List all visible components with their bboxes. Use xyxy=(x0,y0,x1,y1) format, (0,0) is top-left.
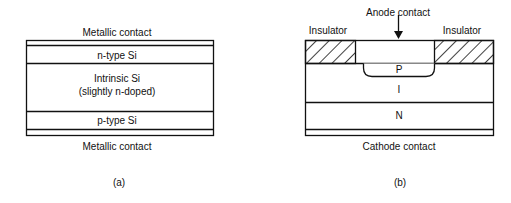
label-p-type-si: p-type Si xyxy=(97,115,136,126)
label-n-type-si: n-type Si xyxy=(97,50,136,61)
label-p-region: P xyxy=(396,64,403,75)
arrow-down-icon xyxy=(394,31,403,39)
label-insulator-left: Insulator xyxy=(309,25,347,36)
diagram-canvas xyxy=(0,0,511,203)
label-anode-contact: Anode contact xyxy=(366,7,430,18)
label-n-region: N xyxy=(395,110,402,121)
label-slightly-n-doped: (slightly n-doped) xyxy=(79,86,156,97)
label-top-metallic-contact: Metallic contact xyxy=(83,27,152,38)
caption-b: (b) xyxy=(394,177,406,188)
label-i-region: I xyxy=(398,84,401,95)
label-cathode-contact: Cathode contact xyxy=(363,141,436,152)
caption-a: (a) xyxy=(113,177,125,188)
label-bottom-metallic-contact: Metallic contact xyxy=(83,141,152,152)
label-insulator-right: Insulator xyxy=(443,25,481,36)
label-intrinsic-si: Intrinsic Si xyxy=(94,73,140,84)
